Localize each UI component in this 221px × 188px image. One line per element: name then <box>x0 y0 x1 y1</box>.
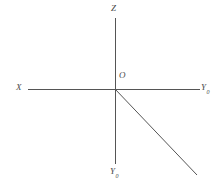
y-axis-down-label-subscript: 0 <box>116 173 119 179</box>
x-axis-label-text: X <box>16 82 22 92</box>
axes-drawing <box>0 0 221 188</box>
z-axis-label-text: Z <box>111 3 116 13</box>
y-axis-down-label-text: Y <box>110 166 115 176</box>
y-axis-right-label-text: Y <box>201 82 206 92</box>
y-axis-down-label: Y0 <box>110 167 118 178</box>
y-axis-right-label-subscript: 0 <box>207 89 210 95</box>
origin-label: O <box>119 71 126 80</box>
origin-label-text: O <box>119 70 126 80</box>
y-axis-right-label: Y0 <box>201 83 209 94</box>
z-axis-label: Z <box>111 4 116 13</box>
coordinate-axes-diagram: Z X Y0 Y0 O <box>0 0 221 188</box>
x-axis-label: X <box>16 83 22 92</box>
oblique-ray-line <box>115 89 197 175</box>
